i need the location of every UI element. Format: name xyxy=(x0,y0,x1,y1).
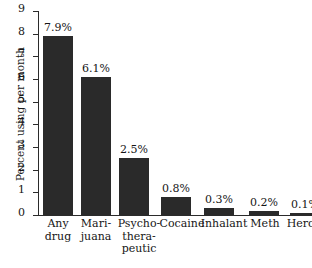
bar-meth: 0.2% xyxy=(249,211,279,216)
y-axis-tick-label: 6 xyxy=(18,71,25,82)
y-axis-tick-label: 0 xyxy=(18,207,25,218)
x-axis-label-line: Mari- xyxy=(74,218,118,231)
x-axis-label-line: Any xyxy=(38,218,78,231)
y-axis-tick: 4 xyxy=(33,124,38,125)
bar-any-drug: 7.9% xyxy=(43,36,73,215)
x-axis-label-marijuana: Mari- juana xyxy=(74,218,118,243)
x-axis-label-any-drug: Any drug xyxy=(38,218,78,243)
x-axis-label-line: Psycho- xyxy=(115,218,163,231)
y-axis-tick: 9 xyxy=(33,11,38,12)
x-axis-label-line: drug xyxy=(38,231,78,244)
x-axis-label-line: juana xyxy=(74,231,118,244)
y-axis-tick-label: 9 xyxy=(18,3,25,14)
x-axis-line xyxy=(38,215,312,216)
bar-psychotherapeutic: 2.5% xyxy=(119,158,149,215)
plot-area: 0 1 2 3 4 5 6 7 8 9 7.9% xyxy=(38,11,312,215)
y-axis-tick: 6 xyxy=(33,79,38,80)
bar-value-label: 0.3% xyxy=(205,194,233,205)
y-axis-tick: 8 xyxy=(33,34,38,35)
x-axis-label-psychotherapeutic: Psycho- thera- peutic xyxy=(115,218,163,256)
x-axis-label-line: Cocaine xyxy=(158,218,206,231)
bar-chart: Percent using per month 0 1 2 3 4 5 6 7 xyxy=(0,0,312,268)
y-axis-tick-label: 8 xyxy=(18,26,25,37)
y-axis-tick: 5 xyxy=(33,102,38,103)
y-axis-tick: 1 xyxy=(33,192,38,193)
x-axis-label-line: Heroin xyxy=(284,218,312,231)
bar-value-label: 6.1% xyxy=(82,63,110,74)
bar-heroin: 0.1% xyxy=(290,213,312,215)
bar-value-label: 2.5% xyxy=(120,144,148,155)
x-axis-label-meth: Meth xyxy=(245,218,285,231)
bar-value-label: 7.9% xyxy=(44,22,72,33)
bar-value-label: 0.2% xyxy=(250,197,278,208)
bar-value-label: 0.8% xyxy=(162,183,190,194)
y-axis-tick: 2 xyxy=(33,170,38,171)
y-axis-tick-label: 7 xyxy=(18,48,25,59)
x-axis-label-cocaine: Cocaine xyxy=(158,218,206,231)
y-axis-tick-label: 4 xyxy=(18,116,25,127)
x-axis-label-heroin: Heroin xyxy=(284,218,312,231)
y-axis-tick: 3 xyxy=(33,147,38,148)
y-axis-tick-label: 2 xyxy=(18,162,25,173)
y-axis-tick-label: 1 xyxy=(18,184,25,195)
y-axis-line xyxy=(38,11,39,215)
y-axis-tick-label: 5 xyxy=(18,94,25,105)
x-axis-label-line: Inhalant xyxy=(200,218,248,231)
y-axis-tick: 0 xyxy=(33,215,38,216)
y-axis-tick: 7 xyxy=(33,56,38,57)
x-axis-labels: Any drug Mari- juana Psycho- thera- peut… xyxy=(38,218,312,268)
bar-marijuana: 6.1% xyxy=(81,77,111,215)
x-axis-label-line: Meth xyxy=(245,218,285,231)
y-axis-tick-label: 3 xyxy=(18,139,25,150)
bar-value-label: 0.1% xyxy=(291,199,312,210)
x-axis-label-line: peutic xyxy=(115,243,163,256)
x-axis-label-inhalant: Inhalant xyxy=(200,218,248,231)
bar-cocaine: 0.8% xyxy=(161,197,191,215)
bar-inhalant: 0.3% xyxy=(204,208,234,215)
